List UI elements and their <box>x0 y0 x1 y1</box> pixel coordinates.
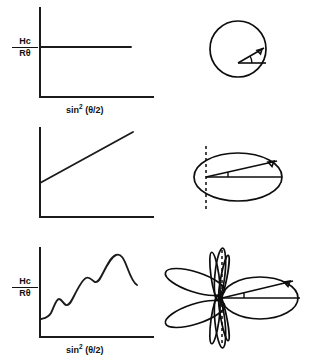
plot-linear-svg <box>0 120 160 240</box>
y-axis-numerator: Hc <box>12 37 38 48</box>
ellipse-radius-arrowhead <box>268 161 274 167</box>
plot-axes <box>40 248 153 337</box>
x-axis-exponent: 2 <box>79 103 83 110</box>
circle-angle-arc <box>250 56 252 63</box>
shape-ellipse: Rθ 2θ <box>160 120 320 240</box>
x-axis-label: sin2 (θ/2) <box>66 103 104 115</box>
plot-curve <box>40 132 133 183</box>
x-axis-base: sin <box>66 105 79 115</box>
figure-row-1: Hc Rθ sin2 (θ/2) Rθ 2θ <box>0 0 320 120</box>
plot-oscillatory: Hc Rθ sin2 (θ/2) <box>0 240 160 360</box>
shape-rosette: Rθ 2θ <box>160 240 320 360</box>
y-axis-denominator: Rθ <box>12 48 38 58</box>
plot-axes <box>40 8 153 97</box>
figure-row-2: Hc Rθ sin2 (θ/2) Rθ 2θ <box>0 120 320 240</box>
plot-linear: Hc Rθ sin2 (θ/2) <box>0 120 160 240</box>
plot-constant-svg <box>0 0 160 120</box>
figure-row-3: Hc Rθ sin2 (θ/2) <box>0 240 320 360</box>
plot-oscillatory-svg <box>0 240 160 360</box>
shape-rosette-svg <box>160 240 320 360</box>
shape-ellipse-svg <box>160 120 320 240</box>
x-axis-argument: (θ/2) <box>85 105 103 115</box>
ellipse-radius-ray <box>206 161 277 177</box>
plot-axes <box>40 128 153 217</box>
plot-constant: Hc Rθ sin2 (θ/2) <box>0 0 160 120</box>
y-axis-label: Hc Rθ <box>12 37 38 58</box>
figure-root: Hc Rθ sin2 (θ/2) Rθ 2θ Hc <box>0 0 320 360</box>
plot-curve <box>41 255 137 319</box>
shape-circle-svg <box>160 0 320 120</box>
circle-outline <box>210 21 266 77</box>
shape-circle: Rθ 2θ <box>160 0 320 120</box>
